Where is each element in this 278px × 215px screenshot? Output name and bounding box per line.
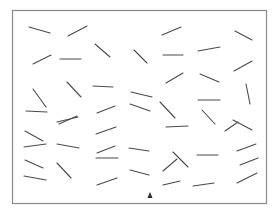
line-segment (246, 84, 250, 104)
line-segment (130, 170, 149, 175)
line-segment (33, 89, 46, 107)
line-segment (97, 106, 115, 113)
line-segment (166, 126, 188, 127)
line-segment (25, 160, 43, 168)
line-segment (173, 152, 188, 167)
line-segment (57, 144, 79, 148)
stimulus-canvas (0, 0, 278, 215)
line-segment (225, 122, 238, 131)
line-segment (166, 73, 183, 83)
line-segment (29, 27, 50, 33)
line-segment (68, 26, 87, 36)
line-segment (240, 158, 258, 165)
line-segment (97, 178, 117, 185)
line-segment (59, 116, 77, 124)
line-segment (26, 111, 47, 112)
line-segment (162, 27, 181, 35)
line-segment (234, 61, 252, 71)
line-segment (67, 82, 81, 97)
line-segment (163, 181, 180, 185)
line-segment (97, 146, 115, 153)
arrow-up-icon[interactable] (148, 192, 153, 198)
line-segment (25, 131, 43, 141)
line-segment (129, 148, 149, 151)
line-segment (160, 102, 175, 118)
line-segment (237, 144, 256, 151)
line-segment (193, 183, 214, 186)
line-segment (24, 176, 46, 180)
line-segment (134, 50, 147, 63)
line-segment (202, 110, 215, 124)
line-segment (130, 104, 150, 111)
line-segment (233, 120, 252, 130)
line-segment (200, 74, 219, 82)
line-segment (131, 92, 152, 97)
line-segment (235, 31, 252, 40)
line-segment (57, 163, 71, 178)
line-segment (163, 159, 177, 171)
line-segment (24, 144, 46, 147)
line-segment (237, 173, 257, 183)
segment-group (24, 26, 258, 186)
line-segment (93, 86, 113, 87)
line-segment (96, 127, 116, 134)
line-segment (33, 55, 51, 64)
line-segment (95, 44, 110, 57)
line-segment (198, 47, 220, 51)
line-segment (57, 117, 78, 122)
